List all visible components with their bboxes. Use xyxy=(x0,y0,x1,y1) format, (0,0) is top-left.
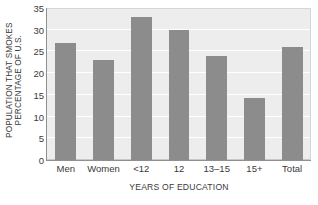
x-tick-label: 15+ xyxy=(246,163,262,174)
y-axis-title-line-1: PERCENTAGE OF U.S. xyxy=(14,35,23,125)
y-axis-tick-labels: 05101520253035 xyxy=(26,8,44,160)
bars-layer xyxy=(47,9,310,160)
y-axis-line xyxy=(46,8,47,161)
bar xyxy=(131,17,152,160)
x-tick-label: 13–15 xyxy=(203,163,229,174)
y-tick-label: 0 xyxy=(39,155,44,166)
x-tick-label: <12 xyxy=(133,163,149,174)
y-axis-title-rotated-group: PERCENTAGE OF U.S. POPULATION THAT SMOKE… xyxy=(5,22,23,138)
y-tick-label: 10 xyxy=(33,111,44,122)
x-axis-title: YEARS OF EDUCATION xyxy=(47,182,311,192)
bar xyxy=(282,47,303,160)
y-tick-label: 20 xyxy=(33,68,44,79)
y-axis-title: PERCENTAGE OF U.S. POPULATION THAT SMOKE… xyxy=(0,0,28,160)
plot-area xyxy=(47,8,311,160)
x-tick-label: Total xyxy=(282,163,302,174)
bar xyxy=(55,43,76,160)
x-tick-label: Men xyxy=(57,163,75,174)
gridline-35 xyxy=(47,7,310,8)
y-tick-label: 15 xyxy=(33,89,44,100)
y-tick-label: 30 xyxy=(33,24,44,35)
y-axis-title-line-2: POPULATION THAT SMOKES xyxy=(5,22,14,138)
y-tick-label: 25 xyxy=(33,46,44,57)
y-tick-label: 5 xyxy=(39,133,44,144)
bar xyxy=(93,60,114,160)
x-axis-line xyxy=(46,160,311,161)
bar xyxy=(244,98,265,160)
x-tick-label: 12 xyxy=(174,163,185,174)
bar xyxy=(169,30,190,160)
y-tick-label: 35 xyxy=(33,3,44,14)
bar-chart-figure: PERCENTAGE OF U.S. POPULATION THAT SMOKE… xyxy=(0,0,318,205)
x-axis-tick-labels: MenWomen<121213–1515+Total xyxy=(47,163,311,177)
bar xyxy=(206,56,227,160)
x-tick-label: Women xyxy=(87,163,120,174)
